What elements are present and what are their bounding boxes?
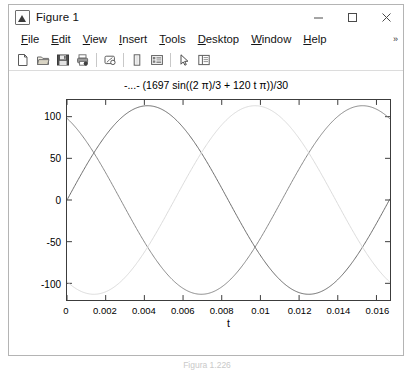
menu-mnemonic: H bbox=[303, 33, 311, 45]
menu-item-view[interactable]: View bbox=[77, 33, 113, 45]
minimize-icon bbox=[313, 12, 324, 23]
edit-plot-cursor-icon bbox=[177, 53, 191, 67]
show-plot-tools-button[interactable] bbox=[194, 51, 213, 69]
x-tick-label: 0.014 bbox=[327, 305, 351, 316]
close-button[interactable] bbox=[369, 5, 403, 29]
plot-axes: -100-50050100 00.0020.0040.0060.0080.010… bbox=[66, 99, 391, 301]
show-plot-tools-icon bbox=[197, 53, 211, 67]
x-axis-label: t bbox=[66, 317, 391, 329]
menu-item-file[interactable]: File bbox=[15, 33, 45, 45]
minimize-button[interactable] bbox=[301, 5, 335, 29]
menu-label: dit bbox=[59, 33, 71, 45]
y-tick-label: 100 bbox=[44, 110, 61, 121]
maximize-icon bbox=[347, 12, 358, 23]
insert-legend-icon bbox=[150, 53, 164, 67]
menu-label: nsert bbox=[122, 33, 147, 45]
x-tick-label: 0.01 bbox=[251, 305, 270, 316]
axes-box bbox=[66, 99, 391, 301]
menu-overflow-chevron-icon[interactable]: » bbox=[393, 35, 398, 44]
open-file-icon bbox=[36, 53, 50, 67]
print-figure-icon bbox=[76, 53, 90, 67]
matlab-figure-icon bbox=[15, 10, 30, 25]
window-controls bbox=[301, 5, 403, 29]
edit-plot-button[interactable] bbox=[174, 51, 193, 69]
new-figure-icon bbox=[16, 53, 30, 67]
open-file-button[interactable] bbox=[33, 51, 52, 69]
menu-item-insert[interactable]: Insert bbox=[113, 33, 153, 45]
menu-label: esktop bbox=[206, 33, 239, 45]
menu-mnemonic: D bbox=[198, 33, 206, 45]
save-figure-button[interactable] bbox=[53, 51, 72, 69]
plot-title: -...- (1697 sin((2 π)/3 + 120 t π))/30 bbox=[9, 79, 403, 91]
toolbar-separator bbox=[123, 53, 124, 67]
menu-label: ile bbox=[28, 33, 39, 45]
title-bar: Figure 1 bbox=[9, 5, 403, 29]
x-tick-label: 0.006 bbox=[171, 305, 195, 316]
print-figure-button[interactable] bbox=[73, 51, 92, 69]
x-tick-label: 0.002 bbox=[93, 305, 117, 316]
menu-item-window[interactable]: Window bbox=[245, 33, 297, 45]
x-tick-label: 0.008 bbox=[210, 305, 234, 316]
insert-colorbar-icon bbox=[130, 53, 144, 67]
x-tick-label: 0.004 bbox=[132, 305, 156, 316]
maximize-button[interactable] bbox=[335, 5, 369, 29]
close-icon bbox=[381, 12, 392, 23]
y-tick-label: 0 bbox=[55, 195, 61, 206]
menu-mnemonic: W bbox=[251, 33, 262, 45]
menu-mnemonic: F bbox=[21, 33, 28, 45]
menu-bar: File Edit View Insert Tools Desktop Wind… bbox=[9, 29, 403, 49]
menu-mnemonic: E bbox=[51, 33, 59, 45]
toolbar bbox=[9, 49, 403, 71]
link-plot-icon bbox=[103, 53, 117, 67]
figure-window: Figure 1 File Edit View bbox=[8, 4, 404, 356]
new-figure-button[interactable] bbox=[13, 51, 32, 69]
insert-colorbar-button[interactable] bbox=[127, 51, 146, 69]
save-figure-icon bbox=[56, 53, 70, 67]
menu-label: elp bbox=[312, 33, 327, 45]
menu-item-desktop[interactable]: Desktop bbox=[192, 33, 245, 45]
x-tick-label: 0 bbox=[63, 305, 68, 316]
x-tick-label: 0.016 bbox=[365, 305, 389, 316]
plot-curves bbox=[67, 100, 390, 300]
y-tick-label: -100 bbox=[41, 279, 61, 290]
menu-item-tools[interactable]: Tools bbox=[153, 33, 191, 45]
y-tick-label: -50 bbox=[47, 237, 61, 248]
figure-canvas: -...- (1697 sin((2 π)/3 + 120 t π))/30 -… bbox=[9, 71, 403, 355]
menu-label: iew bbox=[90, 33, 107, 45]
figure-caption: Figura 1.226 bbox=[0, 360, 414, 370]
insert-legend-button[interactable] bbox=[147, 51, 166, 69]
menu-mnemonic: V bbox=[83, 33, 90, 45]
menu-item-help[interactable]: Help bbox=[297, 33, 332, 45]
window-title: Figure 1 bbox=[36, 11, 79, 23]
x-tick-label: 0.012 bbox=[288, 305, 312, 316]
menu-label: indow bbox=[262, 33, 292, 45]
link-plot-button[interactable] bbox=[100, 51, 119, 69]
toolbar-separator bbox=[170, 53, 171, 67]
toolbar-separator bbox=[96, 53, 97, 67]
menu-label: ools bbox=[165, 33, 186, 45]
y-tick-label: 50 bbox=[50, 152, 61, 163]
series-phase-b bbox=[67, 106, 390, 295]
menu-item-edit[interactable]: Edit bbox=[45, 33, 76, 45]
